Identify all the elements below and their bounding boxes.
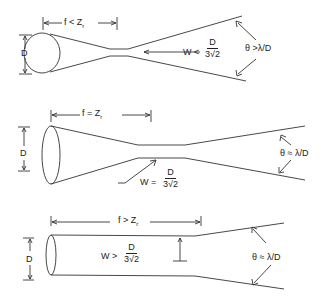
focal-length-label-2: f = Zr <box>82 109 102 118</box>
focal-length-label-1: f < Zr <box>64 18 84 27</box>
panel-long-focus <box>23 216 284 289</box>
waist-label-2: W = <box>140 178 156 187</box>
waist-fraction-3: D 3√2 <box>124 243 139 264</box>
divergence-angle-label-3: θ ≈ λ/D <box>252 253 280 262</box>
aperture-label-1: D <box>21 49 28 58</box>
panel-short-focus <box>19 16 256 81</box>
focal-length-label-3: f > Zr <box>118 216 138 225</box>
divergence-angle-label-1: θ >λ/D <box>245 44 271 53</box>
aperture-label-2: D <box>20 149 27 158</box>
panel-equal-focus <box>18 110 305 184</box>
aperture-label-3: D <box>26 255 33 264</box>
waist-label-1: W < <box>183 48 199 57</box>
waist-label-3: W > <box>101 252 117 261</box>
divergence-angle-label-2: θ ≈ λ/D <box>280 149 308 158</box>
waist-fraction-2: D 3√2 <box>163 168 178 189</box>
waist-fraction-1: D 3√2 <box>205 38 220 59</box>
